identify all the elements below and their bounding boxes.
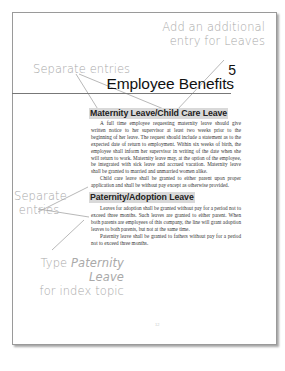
callout-line: entry for Leaves — [162, 34, 265, 48]
callout-line: Separate — [14, 189, 64, 203]
paragraph: Leaves for adoption shall be granted wit… — [91, 205, 241, 233]
callout-separate-entries-top: Separate entries — [33, 62, 130, 76]
header-rule — [12, 93, 231, 94]
paragraph: Child care leave shall be granted to eit… — [91, 175, 241, 189]
callout-topic-name: Paternity Leave — [71, 256, 124, 284]
page-folio: 12 — [155, 322, 159, 327]
callout-line: for index topic — [20, 284, 124, 298]
section-body-paternity: Leaves for adoption shall be granted wit… — [91, 205, 241, 246]
chapter-title: Employee Benefits — [106, 75, 234, 93]
callout-type-topic: Type Paternity Leave for index topic — [20, 256, 124, 298]
callout-line: Add an additional — [162, 20, 265, 34]
callout-line: Type Paternity Leave — [20, 256, 124, 284]
section-body-maternity: A full time employee requesting maternit… — [91, 120, 241, 189]
callout-prefix: Type — [40, 256, 71, 270]
callout-additional-entry: Add an additional entry for Leaves — [162, 20, 265, 48]
paragraph: A full time employee requesting maternit… — [91, 120, 241, 175]
topic-heading-maternity[interactable]: Maternity Leave/Child Care Leave — [89, 108, 228, 119]
callout-separate-entries-left: Separate entries — [14, 189, 64, 217]
callout-line: entries — [14, 203, 64, 217]
topic-heading-paternity[interactable]: Paternity/Adoption Leave — [89, 192, 195, 203]
leader-line-type-topic — [52, 220, 84, 250]
paragraph: Paternity leave shall be granted to fath… — [91, 233, 241, 247]
